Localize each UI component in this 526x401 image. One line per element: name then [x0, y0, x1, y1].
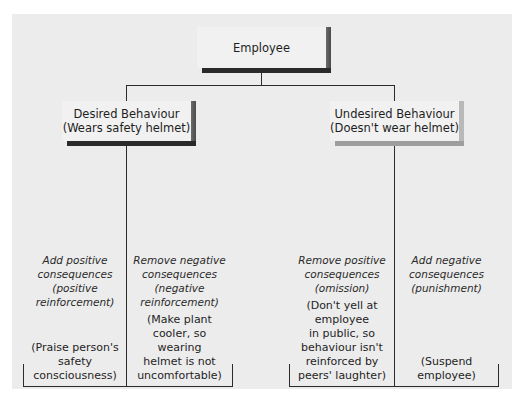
employee-box: Employee: [197, 27, 326, 68]
employee-label: Employee: [233, 41, 290, 55]
option-positive-reinforcement: Add positive consequences (positive rein…: [24, 253, 126, 383]
undesired-drop-line: [394, 85, 395, 101]
option-kind-line: Add negative: [395, 253, 498, 267]
option-kind-line: reinforcement): [127, 295, 232, 309]
option-kind-line: consequences: [127, 267, 232, 281]
desired-drop-line: [126, 85, 127, 101]
example-line: (Make plant: [127, 313, 232, 327]
desired-behaviour-box: Desired Behaviour (Wears safety helmet): [62, 101, 191, 141]
example-line: safety: [24, 355, 126, 369]
example-line: wearing: [127, 341, 232, 355]
undesired-bracket-bottom: [289, 386, 499, 387]
example-line: reinforced by: [290, 355, 394, 369]
desired-bracket-right: [232, 364, 233, 387]
desired-bracket-bottom: [23, 386, 233, 387]
option-kind-line: consequences: [290, 267, 394, 281]
option-example: (Praise person's safety consciousness): [24, 341, 126, 383]
option-omission: Remove positive consequences (omission) …: [290, 253, 394, 383]
option-kind-line: consequences: [24, 267, 126, 281]
option-kind-line: Remove negative: [127, 253, 232, 267]
option-example: (Don't yell at employee in public, so be…: [290, 299, 394, 383]
option-example: (Make plant cooler, so wearing helmet is…: [127, 313, 232, 383]
example-line: cooler, so: [127, 327, 232, 341]
option-kind-line: (omission): [290, 281, 394, 295]
example-line: peers' laughter): [290, 369, 394, 383]
root-horizontal-line: [126, 85, 395, 86]
example-line: (Suspend: [395, 355, 498, 369]
undesired-behaviour-box: Undesired Behaviour (Doesn't wear helmet…: [330, 101, 459, 141]
option-punishment: Add negative consequences (punishment) (…: [395, 253, 498, 383]
example-line: in public, so: [290, 327, 394, 341]
option-kind-line: Remove positive: [290, 253, 394, 267]
example-line: (Don't yell at: [290, 299, 394, 313]
undesired-behaviour-title: Undesired Behaviour: [334, 107, 454, 121]
undesired-bracket-right: [498, 364, 499, 387]
option-kind-line: (negative: [127, 281, 232, 295]
example-line: (Praise person's: [24, 341, 126, 355]
example-line: uncomfortable): [127, 369, 232, 383]
option-negative-reinforcement: Remove negative consequences (negative r…: [127, 253, 232, 383]
example-line: consciousness): [24, 369, 126, 383]
option-kind-line: (punishment): [395, 281, 498, 295]
example-line: employee): [395, 369, 498, 383]
option-kind-line: reinforcement): [24, 295, 126, 309]
option-kind-line: consequences: [395, 267, 498, 281]
desired-behaviour-title: Desired Behaviour: [74, 107, 180, 121]
example-line: behaviour isn't: [290, 341, 394, 355]
undesired-behaviour-example: (Doesn't wear helmet): [330, 121, 459, 135]
option-kind-line: Add positive: [24, 253, 126, 267]
example-line: employee: [290, 313, 394, 327]
option-example: (Suspend employee): [395, 355, 498, 383]
root-stem-line: [261, 73, 262, 85]
desired-behaviour-example: (Wears safety helmet): [63, 121, 191, 135]
option-kind-line: (positive: [24, 281, 126, 295]
example-line: helmet is not: [127, 355, 232, 369]
